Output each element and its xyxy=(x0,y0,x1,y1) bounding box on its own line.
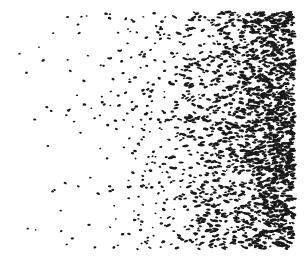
stipple-texture xyxy=(0,0,307,261)
